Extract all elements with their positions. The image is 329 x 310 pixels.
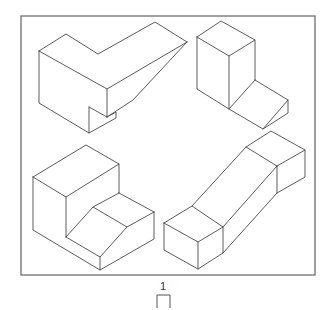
- top-left-object: [39, 22, 187, 133]
- top-right-object: [197, 21, 288, 129]
- edge-line: [223, 150, 305, 253]
- edge-line: [164, 223, 223, 269]
- bottom-left-object: [33, 145, 154, 270]
- edge-line: [33, 145, 119, 197]
- edge-line: [119, 193, 154, 212]
- edge-line: [197, 21, 255, 56]
- edge-line: [229, 80, 288, 129]
- bottom-right-object: [164, 131, 305, 269]
- edge-line: [246, 147, 277, 166]
- edge-line: [66, 207, 154, 237]
- edge-line: [263, 100, 288, 129]
- edge-line: [93, 193, 119, 207]
- edge-line: [229, 80, 255, 109]
- drawing-frame: [21, 16, 315, 275]
- edge-line: [197, 37, 229, 109]
- edge-line: [89, 107, 107, 117]
- edge-line: [66, 227, 127, 257]
- objects-group: [33, 21, 305, 270]
- edge-line: [164, 206, 223, 242]
- edge-line: [39, 51, 116, 133]
- box-symbol-icon: [157, 295, 170, 308]
- edge-line: [33, 177, 154, 270]
- edge-line: [39, 22, 187, 54]
- edge-line: [107, 42, 187, 117]
- figure-label: 1: [160, 280, 166, 292]
- edge-line: [192, 131, 305, 227]
- isometric-drawing: 1: [0, 0, 329, 310]
